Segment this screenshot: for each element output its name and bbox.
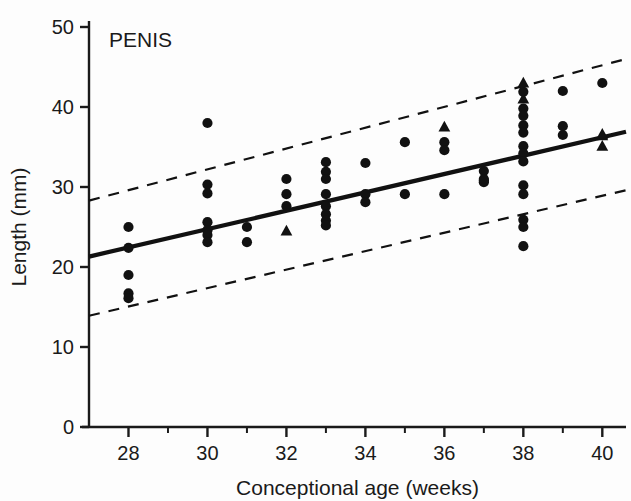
data-point-circle bbox=[518, 222, 528, 232]
data-point-circle bbox=[400, 137, 410, 147]
data-point-circle bbox=[518, 128, 528, 138]
data-point-circle bbox=[202, 188, 212, 198]
data-point-circle bbox=[123, 293, 133, 303]
data-point-circle bbox=[321, 174, 331, 184]
data-point-circle bbox=[518, 111, 528, 121]
data-point-circle bbox=[321, 157, 331, 167]
data-point-circle bbox=[360, 197, 370, 207]
data-point-triangle bbox=[438, 121, 450, 132]
y-axis-label: Length (mm) bbox=[7, 167, 30, 286]
data-point-triangle bbox=[517, 77, 529, 88]
data-point-circle bbox=[360, 158, 370, 168]
data-point-circle bbox=[439, 145, 449, 155]
x-axis-tick-label: 30 bbox=[196, 442, 218, 464]
data-point-circle bbox=[518, 189, 528, 199]
data-point-circle bbox=[518, 180, 528, 190]
data-point-triangle bbox=[281, 225, 293, 236]
regression-line bbox=[89, 132, 626, 257]
x-axis-tick-label: 28 bbox=[117, 442, 139, 464]
x-axis-tick-label: 32 bbox=[275, 442, 297, 464]
data-point-circle bbox=[439, 189, 449, 199]
data-point-circle bbox=[518, 241, 528, 251]
data-point-circle bbox=[558, 121, 568, 131]
data-point-circle bbox=[242, 222, 252, 232]
data-point-circle bbox=[321, 189, 331, 199]
data-point-triangle bbox=[596, 140, 608, 151]
y-axis-tick-label: 10 bbox=[52, 336, 74, 358]
y-axis-tick-label: 0 bbox=[63, 416, 74, 438]
y-axis-tick-label: 20 bbox=[52, 256, 74, 278]
data-point-circle bbox=[321, 220, 331, 230]
x-axis-tick-label: 40 bbox=[591, 442, 613, 464]
x-axis-tick-label: 36 bbox=[433, 442, 455, 464]
data-point-circle bbox=[281, 201, 291, 211]
data-point-circle bbox=[202, 180, 212, 190]
data-point-circle bbox=[202, 118, 212, 128]
data-point-circle bbox=[518, 156, 528, 166]
data-point-circle bbox=[202, 237, 212, 247]
y-axis-tick-label: 50 bbox=[52, 16, 74, 38]
upper-confidence-band bbox=[89, 59, 626, 201]
data-point-circle bbox=[400, 189, 410, 199]
x-axis-tick-label: 38 bbox=[512, 442, 534, 464]
data-point-circle bbox=[558, 86, 568, 96]
data-point-circle bbox=[123, 222, 133, 232]
data-point-circle bbox=[242, 237, 252, 247]
data-point-circle bbox=[123, 243, 133, 253]
data-point-circle bbox=[281, 174, 291, 184]
chart-figure: 0102030405028303234363840PENISConception… bbox=[0, 0, 631, 501]
lower-confidence-band bbox=[89, 190, 626, 316]
panel-title: PENIS bbox=[109, 28, 172, 51]
x-axis-tick-label: 34 bbox=[354, 442, 376, 464]
y-axis-tick-label: 30 bbox=[52, 176, 74, 198]
data-point-circle bbox=[597, 78, 607, 88]
y-axis-tick-label: 40 bbox=[52, 96, 74, 118]
data-point-circle bbox=[123, 270, 133, 280]
data-point-circle bbox=[558, 130, 568, 140]
x-axis-label: Conceptional age (weeks) bbox=[236, 476, 479, 499]
data-point-circle bbox=[479, 174, 489, 184]
data-point-circle bbox=[281, 189, 291, 199]
scatter-plot: 0102030405028303234363840PENISConception… bbox=[0, 0, 631, 501]
